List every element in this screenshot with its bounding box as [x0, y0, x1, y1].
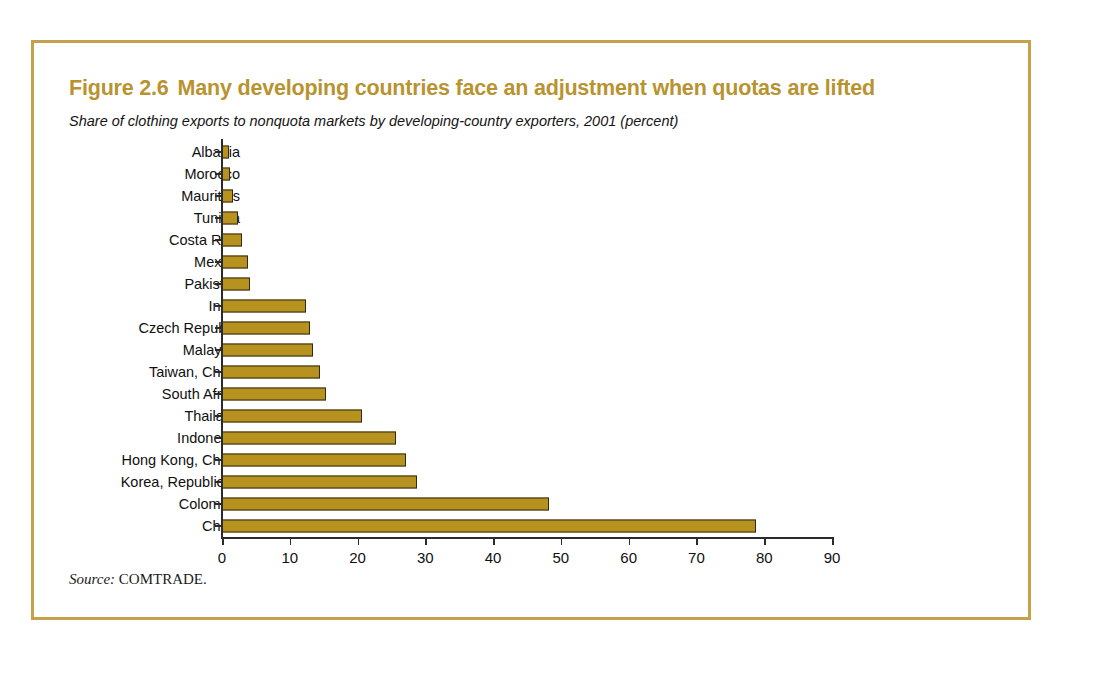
bar-row: Taiwan, China [34, 361, 1034, 383]
bar-row: Morocco [34, 163, 1034, 185]
x-axis-tick-label: 60 [620, 549, 637, 566]
x-axis-tick [561, 537, 563, 545]
bar-row: Albania [34, 141, 1034, 163]
figure-subtitle: Share of clothing exports to nonquota ma… [69, 113, 678, 129]
x-axis-line [221, 537, 833, 539]
bar [222, 168, 230, 181]
bar-row: India [34, 295, 1034, 317]
chart-plot-area: AlbaniaMoroccoMauritiusTunisiaCosta Rica… [34, 139, 1034, 559]
bar-row: Mauritius [34, 185, 1034, 207]
x-axis-tick [764, 537, 766, 545]
x-axis-tick-label: 90 [824, 549, 841, 566]
y-axis-line [221, 139, 223, 537]
bar [222, 256, 248, 269]
bar-row: Pakistan [34, 273, 1034, 295]
x-axis-tick [832, 537, 834, 545]
bar [222, 344, 313, 357]
bar [222, 300, 306, 313]
x-axis-tick-label: 40 [485, 549, 502, 566]
bar-row: Korea, Republic of [34, 471, 1034, 493]
bar [222, 454, 406, 467]
bar-row: Tunisia [34, 207, 1034, 229]
source-note: Source: COMTRADE. [69, 571, 207, 588]
bar-row: Czech Republic [34, 317, 1034, 339]
x-axis-tick [629, 537, 631, 545]
bar-row: Thailand [34, 405, 1034, 427]
figure-number: Figure 2.6 [69, 76, 169, 100]
bar [222, 520, 756, 533]
x-axis-tick [290, 537, 292, 545]
x-axis-tick [358, 537, 360, 545]
category-label: Morocco [184, 166, 240, 182]
bar [222, 388, 326, 401]
x-axis-tick-label: 70 [688, 549, 705, 566]
bar [222, 432, 396, 445]
bar-row: Colombia [34, 493, 1034, 515]
bar-row: Hong Kong, China [34, 449, 1034, 471]
figure-title: Figure 2.6Many developing countries face… [69, 76, 875, 101]
bar-row: Malaysia [34, 339, 1034, 361]
x-axis-tick-label: 0 [218, 549, 226, 566]
bar-row: Indonesia [34, 427, 1034, 449]
bar [222, 476, 417, 489]
bar [222, 146, 229, 159]
figure-title-text: Many developing countries face an adjust… [178, 76, 875, 100]
bar-row: China [34, 515, 1034, 537]
bar [222, 234, 242, 247]
x-axis-tick-label: 20 [349, 549, 366, 566]
bar [222, 366, 320, 379]
source-label: Source: [69, 571, 115, 587]
figure-frame: Figure 2.6Many developing countries face… [31, 40, 1031, 620]
bar-row: South Africa [34, 383, 1034, 405]
bar [222, 278, 250, 291]
bar [222, 212, 238, 225]
bar [222, 410, 362, 423]
bar [222, 190, 233, 203]
source-value: COMTRADE. [119, 571, 207, 587]
x-axis-tick-label: 30 [417, 549, 434, 566]
x-axis-tick [493, 537, 495, 545]
x-axis-tick-label: 50 [553, 549, 570, 566]
x-axis-tick [425, 537, 427, 545]
bar-row: Mexico [34, 251, 1034, 273]
bar-row: Costa Rica [34, 229, 1034, 251]
x-axis-tick [696, 537, 698, 545]
x-axis-tick [222, 537, 224, 545]
x-axis-tick-label: 10 [281, 549, 298, 566]
x-axis-tick-label: 80 [756, 549, 773, 566]
bar [222, 322, 310, 335]
bar [222, 498, 549, 511]
